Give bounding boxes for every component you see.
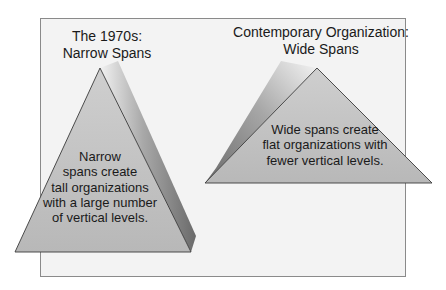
wide-description-line: Wide spans create — [250, 122, 400, 137]
wide-spans-title-line1: Contemporary Organization: — [226, 24, 416, 41]
narrow-spans-title: The 1970s: Narrow Spans — [52, 28, 162, 61]
narrow-description-line: with a large number — [35, 195, 165, 210]
narrow-spans-title-line2: Narrow Spans — [52, 45, 162, 62]
wide-spans-title-line2: Wide Spans — [226, 41, 416, 58]
narrow-description-line: Narrow — [35, 149, 165, 164]
narrow-spans-title-line1: The 1970s: — [52, 28, 162, 45]
wide-description-line: flat organizations with — [250, 137, 400, 152]
narrow-description-line: of vertical levels. — [35, 210, 165, 225]
span-of-control-diagram: The 1970s: Narrow Spans Contemporary Org… — [0, 0, 446, 290]
wide-description-line: fewer vertical levels. — [250, 153, 400, 168]
wide-spans-title: Contemporary Organization: Wide Spans — [226, 24, 416, 57]
narrow-description-line: spans create — [35, 164, 165, 179]
narrow-description-line: tall organizations — [35, 180, 165, 195]
wide-spans-description: Wide spans create flat organizations wit… — [250, 122, 400, 168]
narrow-spans-description: Narrow spans create tall organizations w… — [35, 149, 165, 226]
